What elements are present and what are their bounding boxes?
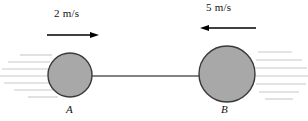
right-wall-hatching — [255, 52, 308, 99]
velocity-label-a: 2 m/s — [54, 7, 79, 19]
arrow-head-right — [90, 32, 99, 38]
physics-diagram-figure: 2 m/s 5 m/s A B — [0, 0, 308, 121]
velocity-arrow-a — [47, 32, 99, 38]
velocity-label-b: 5 m/s — [206, 1, 231, 13]
sphere-a — [48, 53, 92, 97]
body-label-a: A — [66, 103, 73, 115]
arrow-head-left — [200, 25, 209, 31]
velocity-arrow-b — [200, 25, 256, 31]
sphere-b — [199, 46, 255, 102]
body-label-b: B — [221, 103, 228, 115]
diagram-canvas — [0, 0, 308, 121]
